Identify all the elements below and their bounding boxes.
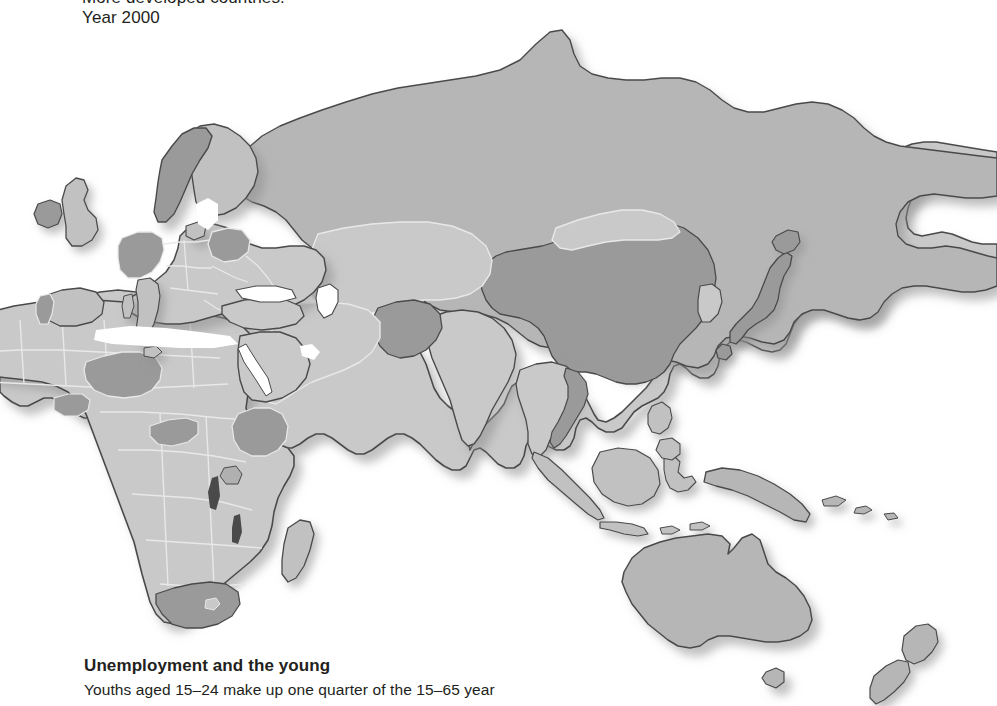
nz-south-island	[870, 660, 910, 704]
sulawesi-shape	[664, 456, 696, 492]
madagascar-shape	[282, 520, 314, 582]
region-british-isles	[34, 178, 98, 246]
nz-north-island	[902, 624, 938, 664]
burkina-faso-shape	[54, 394, 90, 416]
borneo-shape	[592, 448, 660, 506]
tasmania-shape	[762, 668, 784, 688]
germany-shape	[118, 232, 164, 278]
region-iberia	[36, 288, 104, 326]
lesser-sunda-islands	[660, 522, 710, 534]
world-map	[0, 0, 997, 706]
new-guinea-shape	[704, 468, 810, 522]
region-maritime-southeast-asia	[532, 402, 898, 536]
top-caption-line-1: More developed countries:	[82, 0, 582, 8]
bottom-caption: Unemployment and the young Youths aged 1…	[84, 655, 704, 700]
philippines-mindanao	[656, 438, 680, 460]
ireland-shape	[34, 200, 62, 228]
map-figure-page: More developed countries: Year 2000 Unem…	[0, 0, 997, 706]
great-britain-shape	[62, 178, 98, 246]
philippines-luzon	[648, 402, 672, 434]
ethiopia-shape	[232, 408, 288, 456]
pacific-island-chain	[822, 496, 898, 520]
australia-shape	[622, 534, 812, 648]
region-germany	[118, 232, 164, 278]
bottom-caption-headline: Unemployment and the young	[84, 655, 704, 677]
top-caption-line-2: Year 2000	[82, 8, 582, 28]
region-madagascar	[282, 520, 314, 582]
top-caption: More developed countries: Year 2000	[82, 0, 582, 28]
bottom-caption-line-1: Youths aged 15–24 make up one quarter of…	[84, 679, 704, 700]
java-shape	[600, 522, 648, 536]
region-new-zealand	[870, 624, 938, 704]
sumatra-shape	[532, 452, 604, 520]
niger-shape	[84, 352, 162, 398]
world-map-svg	[0, 0, 997, 706]
